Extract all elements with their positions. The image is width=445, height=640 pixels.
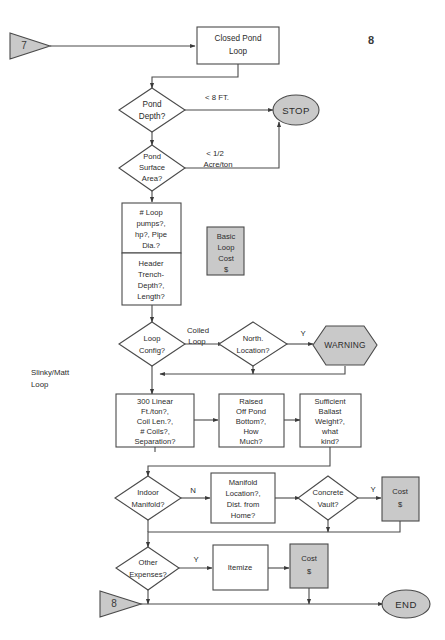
node-raised-off-pond-line2: Off Pond [236,407,266,416]
node-basic-loop-cost-line1: Basic [217,232,236,241]
edge-label-coiled-2: Loop [188,337,206,346]
edge-warning-to-bus [253,366,345,374]
node-other-expenses-line1: Other [139,558,158,567]
node-pond-surface-area-line1: Pond [143,152,161,161]
node-cost-vault-line1: Cost [392,487,409,496]
node-raised-off-pond[interactable]: Raised Off Pond Bottom?, How Much? [219,394,284,447]
node-other-expenses[interactable]: Other Expenses? [116,547,179,590]
node-cost-vault-shape [382,477,419,521]
node-indoor-manifold-line1: Indoor [137,488,159,497]
node-pond-depth-shape [119,88,185,132]
node-loop-config[interactable]: Loop Config? [119,322,185,366]
offpage-connector-7-label: 7 [21,40,27,51]
node-basic-loop-cost-line2: Loop [218,243,235,252]
node-linear-ft-line3: Coil Len.?, [137,417,173,426]
edge-label-manifold-no: N [190,486,196,495]
node-indoor-manifold[interactable]: Indoor Manifold? [115,476,181,520]
node-warning-label: WARNING [324,340,366,350]
node-linear-ft[interactable]: 300 Linear Ft./ton?, Coil Len.?, # Coils… [116,394,194,447]
offpage-connector-7[interactable]: 7 [10,33,50,59]
edge-label-slinky-1: Slinky/Matt [31,368,70,377]
offpage-connector-8-label: 8 [111,598,117,609]
node-loop-config-line1: Loop [144,334,161,343]
node-pond-depth[interactable]: Pond Depth? [119,88,185,132]
node-north-location-line2: Location? [237,346,270,355]
edge-label-vault-yes: Y [370,485,376,494]
node-indoor-manifold-line2: Manifold? [132,500,165,509]
node-loop-pumps-line3: hp?, Pipe [135,230,167,239]
node-linear-ft-line1: 300 Linear [137,397,173,406]
node-manifold-location-line2: Location?, [225,489,260,498]
node-header-trench-line4: Length? [137,292,164,301]
node-header-trench-line2: Trench- [138,270,164,279]
offpage-connector-8-shape [100,591,141,617]
flowchart-canvas: 8 [0,0,445,640]
node-concrete-vault[interactable]: Concrete Vault? [298,476,358,520]
node-linear-ft-line4: # Coils?, [140,427,170,436]
edge-closedpond-to-ponddepth [152,64,238,88]
node-concrete-vault-line1: Concrete [313,488,344,497]
node-loop-pumps-line4: Dia.? [142,241,160,250]
edge-label-other-yes: Y [193,555,199,564]
node-itemize[interactable]: Itemize [213,545,268,590]
node-closed-pond-loop[interactable]: Closed Pond Loop [197,27,279,64]
offpage-connector-7-shape [10,33,50,59]
node-ballast-weight[interactable]: Sufficient Ballast Weight?, what kind? [300,394,361,447]
edge-label-coiled-1: Coiled [187,326,209,335]
node-manifold-location-line4: Home? [231,511,255,520]
node-manifold-location-line1: Manifold [229,478,258,487]
node-closed-pond-loop-line1: Closed Pond [215,34,262,43]
node-cost-other[interactable]: Cost $ [290,544,328,588]
node-ballast-weight-line5: kind? [321,437,339,446]
node-concrete-vault-shape [298,476,358,520]
node-ballast-weight-line1: Sufficient [314,397,346,406]
node-header-trench-line3: Depth?, [138,281,165,290]
node-warning[interactable]: WARNING [313,326,377,365]
node-loop-pumps-line1: # Loop [139,208,162,217]
node-north-location-line1: North. [243,334,264,343]
node-linear-ft-line2: Ft./ton?, [141,407,169,416]
node-cost-vault[interactable]: Cost $ [382,477,419,521]
node-raised-off-pond-line3: Bottom?, [236,417,266,426]
edge-cost1-to-bus [328,521,400,532]
node-stop[interactable]: STOP [273,95,319,125]
page-number: 8 [368,34,374,46]
edge-label-north-yes: Y [300,329,306,338]
edge-label-slinky-2: Loop [31,380,49,389]
node-manifold-location-line3: Dist. from [227,500,260,509]
flowchart-svg: 8 [0,0,445,640]
node-manifold-location[interactable]: Manifold Location?, Dist. from Home? [211,473,275,523]
node-loop-pumps-line2: pumps?, [136,219,165,228]
node-closed-pond-loop-shape [197,27,279,64]
node-end[interactable]: END [382,590,430,618]
node-end-label: END [395,599,416,610]
node-header-trench[interactable]: Header Trench- Depth?, Length? [122,253,181,305]
node-pond-depth-line1: Pond [142,100,162,109]
node-ballast-weight-line2: Ballast [319,407,343,416]
edge-label-8ft: < 8 FT. [205,93,229,102]
node-raised-off-pond-line1: Raised [239,397,263,406]
node-ballast-weight-line3: Weight?, [315,417,345,426]
edge-ballast-to-indoormanifold [148,447,330,476]
node-other-expenses-line2: Expenses? [129,570,167,579]
edge-label-half-acre-1: < 1/2 [206,149,224,158]
node-itemize-label: Itemize [228,563,252,572]
node-cost-other-shape [290,544,328,588]
node-ballast-weight-line4: what [321,427,339,436]
node-loop-config-line2: Config? [139,346,165,355]
node-pond-surface-area[interactable]: Pond Surface Area? [119,145,185,191]
node-cost-other-line1: Cost [301,554,318,563]
node-loop-pumps[interactable]: # Loop pumps?, hp?, Pipe Dia.? [122,203,181,253]
node-closed-pond-loop-line2: Loop [229,47,248,56]
node-linear-ft-line5: Separation? [135,437,176,446]
node-pond-surface-area-line2: Surface [139,163,165,172]
node-pond-depth-line2: Depth? [139,112,166,121]
node-basic-loop-cost[interactable]: Basic Loop Cost $ [207,227,244,275]
node-north-location[interactable]: North. Location? [219,322,287,366]
offpage-connector-8[interactable]: 8 [100,591,141,617]
node-raised-off-pond-line4: How [243,427,259,436]
node-concrete-vault-line2: Vault? [318,500,339,509]
node-indoor-manifold-shape [115,476,181,520]
edge-label-half-acre-2: Acre/ton [203,160,232,169]
node-header-trench-line1: Header [139,259,164,268]
